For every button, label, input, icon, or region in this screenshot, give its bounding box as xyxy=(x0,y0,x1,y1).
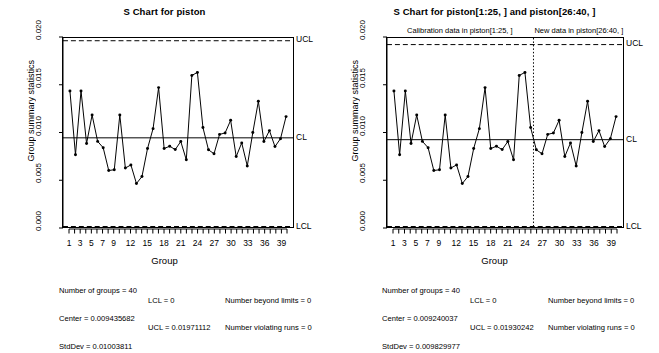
cl-label-right: CL xyxy=(626,134,637,144)
y-tick-label: 0.015 xyxy=(34,68,43,88)
stat-num-groups-left: Number of groups = 40 xyxy=(59,286,137,295)
stats-column-2-right: LCL = 0 UCL = 0.01930242 xyxy=(470,277,534,351)
y-tick-label: 0.005 xyxy=(358,163,367,183)
x-tick-label: 18 xyxy=(483,238,499,248)
x-tick-label: 24 xyxy=(190,238,206,248)
y-tick-label: 0.005 xyxy=(34,163,43,183)
page-title-left: S Chart for piston xyxy=(0,6,329,17)
stats-block-left: Number of groups = 40 Center = 0.0094356… xyxy=(0,268,329,303)
stats-column-3-left: Number beyond limits = 0 Number violatin… xyxy=(225,277,312,351)
x-tick-label: 33 xyxy=(240,238,256,248)
x-tick-label: 15 xyxy=(139,238,155,248)
stats-column-1-left: Number of groups = 40 Center = 0.0094356… xyxy=(59,268,137,353)
y-tick-label: 0.020 xyxy=(34,20,43,40)
x-tick-label: 30 xyxy=(552,238,568,248)
x-tick-label: 12 xyxy=(122,238,138,248)
x-tick-label: 33 xyxy=(569,238,585,248)
y-tick-label: 0.000 xyxy=(34,211,43,231)
stats-column-1-right: Number of groups = 40 Center = 0.0092400… xyxy=(382,268,460,353)
x-tick-label: 21 xyxy=(500,238,516,248)
x-tick-label: 36 xyxy=(586,238,602,248)
y-tick-label: 0.000 xyxy=(358,211,367,231)
y-tick-label: 0.015 xyxy=(358,68,367,88)
y-tick-label: 0.010 xyxy=(34,116,43,136)
stat-violating-runs-right: Number violating runs = 0 xyxy=(548,323,635,332)
x-tick-label: 9 xyxy=(431,238,447,248)
stat-center-right: Center = 0.009240037 xyxy=(382,314,460,323)
stat-ucl-right: UCL = 0.01930242 xyxy=(470,323,534,332)
x-tick-label: 39 xyxy=(603,238,619,248)
plot-area-left xyxy=(62,37,294,228)
stat-num-groups-right: Number of groups = 40 xyxy=(382,286,460,295)
ucl-label-right: UCL xyxy=(626,38,643,48)
cl-label-left: CL xyxy=(296,132,307,142)
x-axis-title-right: Group xyxy=(330,255,659,266)
stat-beyond-limits-right: Number beyond limits = 0 xyxy=(548,296,635,305)
y-tick-label: 0.020 xyxy=(358,20,367,40)
lcl-label-left: LCL xyxy=(296,221,312,231)
x-tick-label: 27 xyxy=(534,238,550,248)
chart-panel-s-chart-piston-phases: S Chart for piston[1:25, ] and piston[26… xyxy=(330,0,659,303)
chart-canvas-left xyxy=(63,38,293,227)
ucl-label-left: UCL xyxy=(296,34,313,44)
stats-block-right: Number of groups = 40 Center = 0.0092400… xyxy=(330,268,659,303)
stat-stddev-right: StdDev = 0.009829977 xyxy=(382,342,460,351)
x-tick-label: 36 xyxy=(257,238,273,248)
stat-beyond-limits-left: Number beyond limits = 0 xyxy=(225,296,312,305)
x-tick-label: 18 xyxy=(156,238,172,248)
y-tick-label: 0.010 xyxy=(358,116,367,136)
stage-label-calibration: Calibration data in piston[1:25, ] xyxy=(386,26,534,35)
x-axis-title-left: Group xyxy=(0,255,329,266)
stat-stddev-left: StdDev = 0.01003811 xyxy=(59,342,137,351)
lcl-label-right: LCL xyxy=(626,221,642,231)
x-tick-label: 9 xyxy=(106,238,122,248)
page-title-right: S Chart for piston[1:25, ] and piston[26… xyxy=(330,6,659,17)
x-tick-label: 12 xyxy=(448,238,464,248)
x-tick-label: 30 xyxy=(223,238,239,248)
x-tick-label: 21 xyxy=(173,238,189,248)
plot-area-right xyxy=(386,37,624,228)
stat-center-left: Center = 0.009435682 xyxy=(59,314,137,323)
stats-column-3-right: Number beyond limits = 0 Number violatin… xyxy=(548,277,635,351)
x-tick-label: 27 xyxy=(206,238,222,248)
stat-lcl-left: LCL = 0 xyxy=(148,296,211,305)
stat-ucl-left: UCL = 0.01971112 xyxy=(148,323,211,332)
stats-column-2-left: LCL = 0 UCL = 0.01971112 xyxy=(148,277,211,351)
chart-panel-s-chart-piston: S Chart for piston Group summary statist… xyxy=(0,0,329,303)
x-tick-label: 24 xyxy=(517,238,533,248)
stat-lcl-right: LCL = 0 xyxy=(470,296,534,305)
x-tick-label: 39 xyxy=(273,238,289,248)
chart-canvas-right xyxy=(387,38,623,227)
stat-violating-runs-left: Number violating runs = 0 xyxy=(225,323,312,332)
stage-label-new-data: New data in piston[26:40, ] xyxy=(534,26,624,35)
x-tick-label: 15 xyxy=(465,238,481,248)
